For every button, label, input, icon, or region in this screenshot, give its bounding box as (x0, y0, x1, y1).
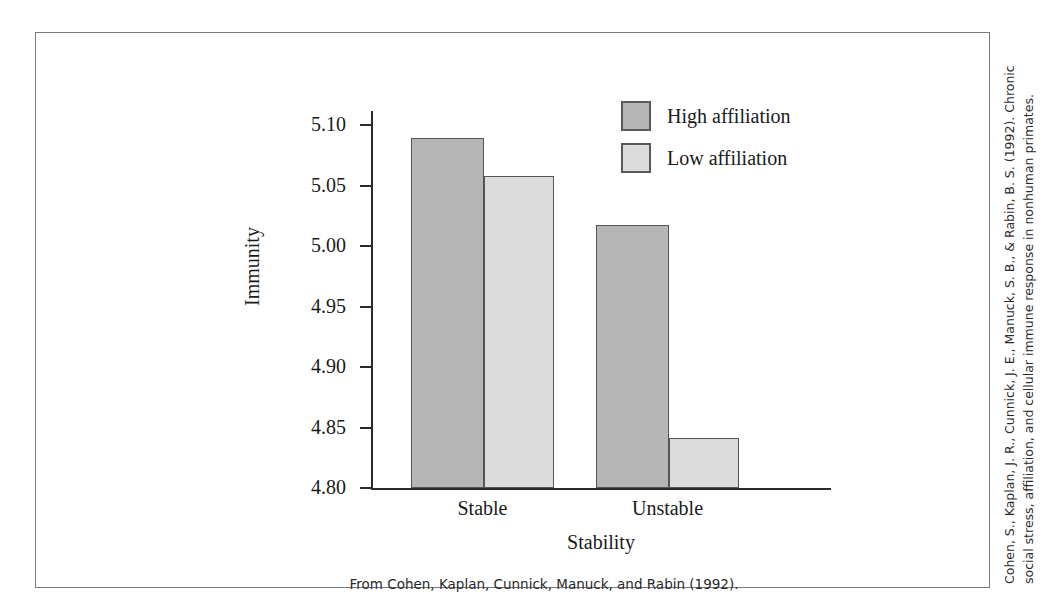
legend-swatch-high-affiliation (621, 101, 651, 131)
y-tick-label-4.85: 4.85 (311, 417, 346, 437)
y-tick-4.85: 4.85 (360, 427, 371, 429)
y-tick-label-4.90: 4.90 (311, 356, 346, 376)
legend-item-high-affiliation: High affiliation (621, 101, 791, 131)
y-tick-label-5.00: 5.00 (311, 235, 346, 255)
figure-frame: 5.10 5.05 5.00 4.95 4.90 4.85 4.80 Stabl… (35, 32, 990, 588)
y-tick-5.10: 5.10 (360, 124, 371, 126)
x-axis-line (371, 488, 831, 490)
y-tick-4.95: 4.95 (360, 306, 371, 308)
y-tick-label-5.10: 5.10 (311, 114, 346, 134)
y-tick-5.05: 5.05 (360, 185, 371, 187)
y-tick-4.90: 4.90 (360, 366, 371, 368)
legend-swatch-low-affiliation (621, 143, 651, 173)
bar-stable-low-affiliation (484, 176, 554, 488)
y-axis-title: Immunity (241, 227, 264, 306)
bar-unstable-high-affiliation (596, 225, 669, 488)
source-note: From Cohen, Kaplan, Cunnick, Manuck, and… (350, 576, 739, 592)
legend-item-low-affiliation: Low affiliation (621, 143, 791, 173)
y-tick-label-4.80: 4.80 (311, 477, 346, 497)
bar-unstable-low-affiliation (669, 438, 739, 488)
y-tick-label-5.05: 5.05 (311, 175, 346, 195)
legend-label-high-affiliation: High affiliation (667, 105, 791, 128)
x-tick-label-unstable: Unstable (632, 497, 703, 520)
y-tick-4.80: 4.80 (360, 487, 371, 489)
x-tick-label-stable: Stable (458, 497, 508, 520)
y-tick-5.00: 5.00 (360, 245, 371, 247)
legend-label-low-affiliation: Low affiliation (667, 147, 787, 170)
bar-stable-high-affiliation (411, 138, 484, 488)
x-axis-title: Stability (567, 531, 635, 554)
y-tick-label-4.95: 4.95 (311, 296, 346, 316)
y-axis-line (371, 111, 373, 490)
side-citation: Cohen, S., Kaplan, J. R., Cunnick, J. E.… (1000, 32, 1039, 584)
chart-legend: High affiliation Low affiliation (621, 101, 791, 185)
